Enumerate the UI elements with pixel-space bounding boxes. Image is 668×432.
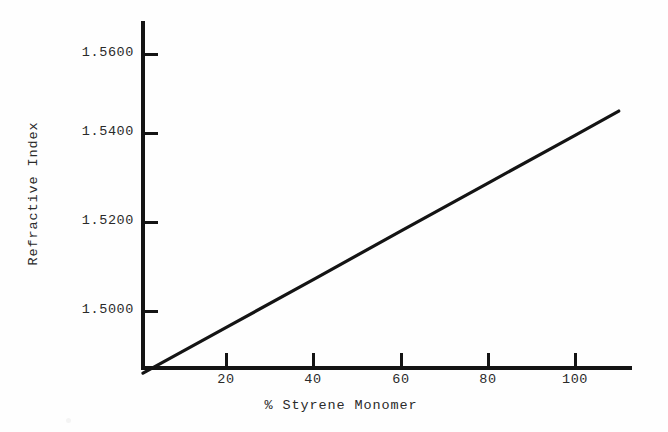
x-axis-tick-label: 20 [186, 372, 266, 387]
y-axis-tick-1.5400 [145, 132, 158, 135]
y-axis-tick-1.5600 [145, 53, 158, 56]
x-axis-tick-100 [574, 353, 577, 366]
x-axis-tick-label: 40 [273, 372, 353, 387]
y-axis-tick-label: 1.5000 [48, 302, 134, 317]
y-axis-title: Refractive Index [26, 99, 41, 289]
x-axis-tick-60 [400, 353, 403, 366]
x-axis-tick-label: 60 [361, 372, 441, 387]
y-axis-tick-label: 1.5600 [48, 45, 134, 60]
x-axis-tick-40 [312, 353, 315, 366]
chart-page: 1.5600 1.5400 1.5200 1.5000 20 40 60 80 … [0, 0, 668, 432]
x-axis-tick-label: 100 [535, 372, 615, 387]
scan-speck [66, 418, 71, 423]
x-axis-tick-20 [225, 353, 228, 366]
x-axis-line [141, 366, 632, 370]
x-axis-tick-80 [487, 353, 490, 366]
y-axis-tick-1.5000 [145, 310, 158, 313]
x-axis-tick-label: 80 [448, 372, 528, 387]
y-axis-line [141, 21, 145, 370]
y-axis-tick-label: 1.5400 [48, 124, 134, 139]
y-axis-tick-1.5200 [145, 221, 158, 224]
y-axis-tick-label: 1.5200 [48, 213, 134, 228]
x-axis-title: % Styrene Monomer [241, 398, 441, 413]
plot-area: 1.5600 1.5400 1.5200 1.5000 20 40 60 80 … [0, 0, 668, 432]
